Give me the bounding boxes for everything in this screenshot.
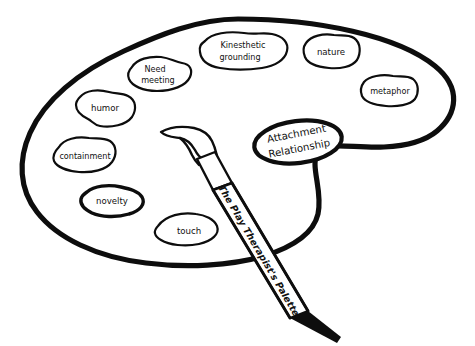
well-nature: nature [304, 34, 360, 68]
well-label: novelty [96, 196, 128, 206]
well-novelty: novelty [81, 186, 143, 217]
well-label: humor [91, 103, 120, 113]
palette-illustration: Kinesthetic grounding nature Need meetin… [0, 0, 475, 346]
palette-diagram: Kinesthetic grounding nature Need meetin… [0, 0, 475, 346]
well-need-meeting: Need meeting [128, 57, 191, 91]
well-metaphor: metaphor [361, 75, 418, 106]
well-containment: containment [53, 137, 115, 172]
well-label: containment [59, 151, 110, 161]
well-label-line1: Need [144, 64, 165, 74]
well-label-line1: Kinesthetic [220, 40, 265, 50]
well-label: metaphor [370, 86, 410, 96]
well-kinesthetic-grounding: Kinesthetic grounding [200, 32, 288, 69]
well-label-line2: grounding [219, 52, 260, 62]
well-label: touch [177, 226, 201, 236]
brush-handle-tip [290, 311, 341, 343]
well-label: nature [317, 47, 345, 57]
well-label-line2: meeting [141, 75, 175, 85]
